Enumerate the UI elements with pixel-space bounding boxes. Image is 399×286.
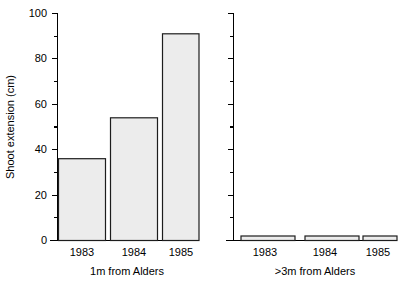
panel-right-caption: >3m from Alders xyxy=(275,265,356,277)
bar-right-1985[interactable] xyxy=(363,236,397,241)
bar-right-1984[interactable] xyxy=(305,236,359,241)
left-y-minor-ticks xyxy=(54,36,58,218)
right-y-minor-ticks xyxy=(230,36,234,218)
bar-left-1984[interactable] xyxy=(111,118,158,241)
cat-label-right-1984: 1984 xyxy=(313,246,337,258)
y-tick-label-0: 0 xyxy=(41,234,47,246)
cat-label-right-1983: 1983 xyxy=(253,246,277,258)
cat-label-left-1985: 1985 xyxy=(169,246,193,258)
chart-figure: 0 20 40 60 80 100 Shoot extension (cm) 1… xyxy=(0,0,399,286)
panel-left: 0 20 40 60 80 100 Shoot extension (cm) 1… xyxy=(4,7,199,277)
y-tick-label-80: 80 xyxy=(35,52,47,64)
y-tick-label-40: 40 xyxy=(35,143,47,155)
bar-chart-svg: 0 20 40 60 80 100 Shoot extension (cm) 1… xyxy=(0,0,399,286)
y-tick-label-100: 100 xyxy=(29,7,47,19)
panel-left-caption: 1m from Alders xyxy=(90,265,164,277)
y-tick-label-60: 60 xyxy=(35,98,47,110)
bar-right-1983[interactable] xyxy=(241,236,295,241)
bar-left-1983[interactable] xyxy=(59,159,106,241)
y-axis-title: Shoot extension (cm) xyxy=(4,75,16,179)
cat-label-left-1984: 1984 xyxy=(122,246,146,258)
cat-label-right-1985: 1985 xyxy=(366,246,390,258)
cat-label-left-1983: 1983 xyxy=(70,246,94,258)
bar-left-1985[interactable] xyxy=(163,34,200,241)
y-tick-label-20: 20 xyxy=(35,189,47,201)
panel-right: 1983 1984 1985 >3m from Alders xyxy=(226,13,397,277)
